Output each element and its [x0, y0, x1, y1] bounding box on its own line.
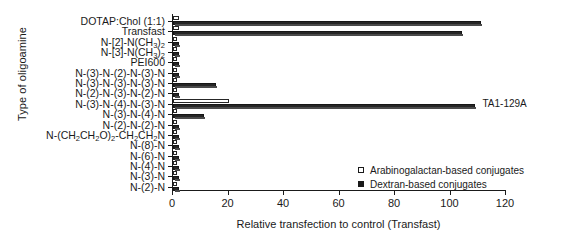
legend-item-label: Arabinogalactan-based conjugates — [370, 165, 524, 176]
y-axis-tick — [168, 166, 172, 167]
bar-arabinogalactan — [173, 88, 177, 92]
x-axis-tick-label: 80 — [374, 197, 414, 209]
bar-arabinogalactan — [173, 120, 177, 124]
bar-arabinogalactan — [173, 151, 177, 155]
bar-dextran — [173, 114, 204, 118]
bar-arabinogalactan — [173, 130, 177, 134]
y-axis-title: Type of oligoamine — [16, 14, 28, 134]
bar-arabinogalactan — [173, 182, 177, 186]
chart-figure: Type of oligoamine DOTAP:Chol (1:1)Trans… — [0, 0, 563, 248]
bar-arabinogalactan — [173, 109, 177, 113]
bar-arabinogalactan — [173, 161, 177, 165]
x-axis-tick-label: 120 — [485, 197, 525, 209]
bar-dextran — [173, 93, 179, 97]
bar-arabinogalactan — [173, 57, 177, 61]
y-axis-tick — [168, 42, 172, 43]
bar-dextran — [173, 166, 179, 170]
y-axis-tick — [168, 104, 172, 105]
open-square-icon — [358, 167, 364, 173]
legend-item-label: Dextran-based conjugates — [370, 179, 487, 190]
x-axis-tick-label: 60 — [319, 197, 359, 209]
legend-item-dextran: Dextran-based conjugates — [358, 177, 524, 191]
bar-dextran — [173, 62, 179, 66]
x-axis-tick-label: 20 — [208, 197, 248, 209]
bar-dextran — [173, 104, 475, 108]
x-axis-tick-label: 40 — [263, 197, 303, 209]
y-axis-tick — [168, 114, 172, 115]
y-axis-tick — [168, 176, 172, 177]
bar-arabinogalactan — [173, 26, 179, 30]
bar-arabinogalactan — [173, 16, 179, 20]
y-axis-tick — [168, 62, 172, 63]
y-axis-tick — [168, 93, 172, 94]
bar-annotation: TA1-129A — [482, 98, 526, 109]
y-axis-tick — [168, 21, 172, 22]
bar-arabinogalactan — [173, 47, 177, 51]
chart-legend: Arabinogalactan-based conjugates Dextran… — [358, 163, 524, 191]
bar-arabinogalactan — [173, 99, 229, 103]
bar-arabinogalactan — [173, 171, 177, 175]
y-axis-tick — [168, 73, 172, 74]
bar-dextran — [173, 135, 179, 139]
bar-arabinogalactan — [173, 78, 177, 82]
x-axis-tick — [283, 190, 284, 195]
legend-item-arabinogalactan: Arabinogalactan-based conjugates — [358, 163, 524, 177]
x-axis-tick — [172, 190, 173, 195]
y-axis-tick — [168, 52, 172, 53]
x-axis-tick-label: 0 — [152, 197, 192, 209]
x-axis-title: Relative transfection to control (Transf… — [172, 218, 505, 230]
x-axis-tick — [228, 190, 229, 195]
bar-dextran — [173, 156, 179, 160]
bar-arabinogalactan — [173, 37, 177, 41]
y-axis-tick — [168, 187, 172, 188]
bar-arabinogalactan — [173, 140, 177, 144]
y-axis-tick — [168, 31, 172, 32]
bar-dextran — [173, 31, 462, 35]
y-axis-tick — [168, 145, 172, 146]
bar-dextran — [173, 125, 179, 129]
x-axis-tick-label: 100 — [430, 197, 470, 209]
bar-dextran — [173, 21, 481, 25]
bar-dextran — [173, 42, 179, 46]
x-axis-tick — [339, 190, 340, 195]
bar-arabinogalactan — [173, 68, 177, 72]
y-axis-tick — [168, 83, 172, 84]
bar-dextran — [173, 176, 179, 180]
bar-dextran — [173, 83, 216, 87]
bar-dextran — [173, 73, 179, 77]
bar-dextran — [173, 187, 179, 191]
y-axis-tick — [168, 135, 172, 136]
y-axis-tick — [168, 156, 172, 157]
bar-dextran — [173, 52, 179, 56]
bar-dextran — [173, 145, 179, 149]
y-axis-tick — [168, 125, 172, 126]
y-axis-tick-label: N-(2)-N — [130, 181, 165, 193]
filled-square-icon — [358, 181, 364, 187]
